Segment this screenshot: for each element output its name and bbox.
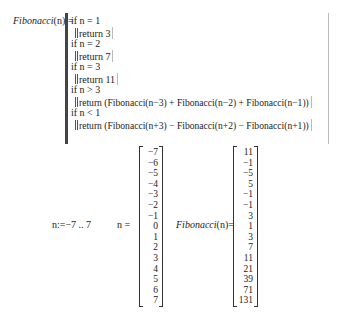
matrix-cell: −6 [142, 158, 158, 169]
matrix-cell: 0 [142, 221, 158, 232]
matrix-cell: −3 [142, 189, 158, 200]
matrix-cell: 6 [142, 285, 158, 296]
program-line-if-gt3: if n > 3 [71, 84, 100, 95]
matrix-cell: −2 [142, 200, 158, 211]
program-block[interactable]: if n = 1 return 3 if n = 2 return 7 if n… [65, 13, 330, 144]
fib-eval-label: Fibonacci(n)= [176, 219, 234, 230]
matrix-cell: −7 [142, 147, 158, 158]
program-line-return-1: return 3 [75, 27, 113, 39]
matrix-cell: 39 [236, 274, 253, 285]
matrix-cell: −5 [142, 168, 158, 179]
program-line-return-gt3: return (Fibonacci(n−3) + Fibonacci(n−2) … [75, 96, 312, 108]
program-line-if-1: if n = 1 [71, 15, 100, 26]
matrix-cell: 11 [236, 147, 253, 158]
matrix-cell: −1 [236, 200, 253, 211]
matrix-cell: 3 [236, 211, 253, 222]
program-line-return-2: return 7 [75, 50, 113, 62]
matrix-cell: 11 [236, 253, 253, 264]
program-line-return-lt1: return (Fibonacci(n+3) − Fibonacci(n+2) … [75, 119, 312, 131]
matrix-cell: −1 [142, 211, 158, 222]
matrix-cell: 21 [236, 264, 253, 275]
n-eval-label: n = [117, 219, 130, 230]
matrix-cell: 71 [236, 285, 253, 296]
matrix-cell: 7 [236, 242, 253, 253]
matrix-cell: 1 [142, 232, 158, 243]
matrix-cell: 7 [142, 295, 158, 306]
matrix-cell: −4 [142, 179, 158, 190]
matrix-cell: 131 [236, 295, 253, 306]
matrix-cell: 5 [142, 274, 158, 285]
matrix-cell: 3 [142, 253, 158, 264]
matrix-cell: 3 [236, 232, 253, 243]
program-line-return-3: return 11 [75, 73, 118, 85]
matrix-cell: −5 [236, 168, 253, 179]
program-line-if-2: if n = 2 [71, 38, 100, 49]
matrix-right-bracket [254, 146, 258, 307]
program-bar [65, 13, 68, 144]
range-definition: n:=−7 .. 7 [52, 219, 91, 230]
function-argument: (n) [54, 15, 66, 26]
matrix-cell: −1 [236, 189, 253, 200]
matrix-cell: 4 [142, 264, 158, 275]
n-values-matrix: −7 −6 −5 −4 −3 −2 −1 0 1 2 3 4 5 6 7 [139, 146, 163, 307]
program-end-bar [328, 13, 329, 144]
fibonacci-values-matrix: 11 −1 −5 5 −1 −1 3 1 3 7 11 21 39 71 131 [233, 146, 258, 307]
range-value: −7 .. 7 [65, 219, 91, 230]
program-line-if-3: if n = 3 [71, 61, 100, 72]
matrix-cell: −1 [236, 158, 253, 169]
function-name: Fibonacci [13, 15, 54, 26]
program-line-if-lt1: if n < 1 [71, 107, 100, 118]
matrix-cell: 1 [236, 221, 253, 232]
matrix-cell: 2 [142, 242, 158, 253]
matrix-right-bracket [159, 146, 163, 307]
matrix-cell: 5 [236, 179, 253, 190]
